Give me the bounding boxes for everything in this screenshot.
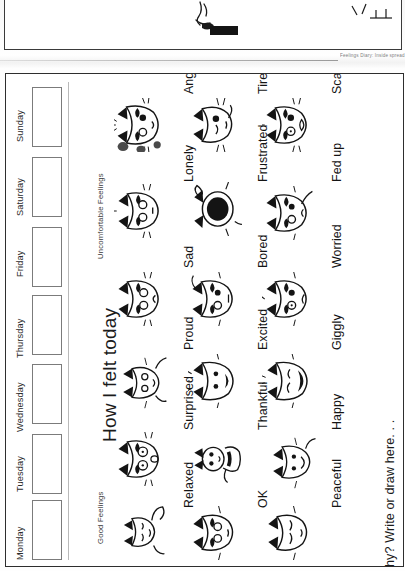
feeling-cell-lonely[interactable]: Lonely xyxy=(114,178,188,256)
feeling-cell-excited[interactable]: Excited xyxy=(188,346,262,424)
day-row-monday: Monday xyxy=(6,498,72,567)
tired-cat-icon xyxy=(188,98,242,152)
day-label-sunday: Sunday xyxy=(15,110,25,142)
frustrated-cat-icon xyxy=(188,182,242,236)
day-row-saturday: Saturday xyxy=(6,150,72,220)
feeling-cell-frustrated[interactable]: Frustrated xyxy=(188,178,262,256)
sad-cat-icon xyxy=(114,272,168,326)
feelings-diary-page: Sunday Saturday Friday Thursday Wednesda… xyxy=(5,73,404,567)
feeling-cell-happy[interactable]: Happy xyxy=(262,426,336,504)
scared-cat-icon xyxy=(262,98,316,152)
group-heading-good: Good Feelings xyxy=(96,491,105,544)
feeling-cell-relaxed[interactable]: Relaxed xyxy=(114,504,188,566)
day-input-sunday[interactable] xyxy=(32,87,62,147)
feeling-cell-proud[interactable]: Proud xyxy=(114,346,188,424)
day-input-saturday[interactable] xyxy=(32,157,62,217)
day-input-monday[interactable] xyxy=(32,500,62,560)
lonely-cat-icon xyxy=(114,184,168,238)
feeling-cell-thankful[interactable]: Thankful xyxy=(188,426,262,504)
day-row-thursday: Thursday xyxy=(6,290,72,360)
feeling-cell-angry[interactable]: Angry xyxy=(114,90,188,168)
feeling-cell-fedup[interactable]: Fed up xyxy=(262,178,336,256)
feeling-cell-worried[interactable]: Worried xyxy=(262,264,336,342)
day-input-tuesday[interactable] xyxy=(32,434,62,494)
day-row-wednesday: Wednesday xyxy=(6,360,72,430)
day-label-friday: Friday xyxy=(15,251,25,277)
previous-page-illustration-fragment xyxy=(180,0,405,44)
feeling-label-worried: Worried xyxy=(330,224,344,268)
thankful-cat-icon xyxy=(188,432,242,486)
day-label-thursday: Thursday xyxy=(15,319,25,359)
feeling-cell-scared[interactable]: Scared xyxy=(262,90,336,168)
angry-cat-icon xyxy=(114,98,168,152)
bored-cat-icon xyxy=(188,272,242,326)
giggly-cat-icon xyxy=(262,354,316,408)
proud-cat-icon xyxy=(116,356,170,410)
peaceful-cat-icon xyxy=(262,506,316,560)
group-heading-uncomfortable: Uncomfortable Feelings xyxy=(96,173,105,259)
day-row-sunday: Sunday xyxy=(6,80,72,150)
day-row-friday: Friday xyxy=(6,220,72,290)
ok-cat-icon xyxy=(188,506,242,560)
caption-rule xyxy=(0,60,338,61)
days-column-divider xyxy=(68,82,69,560)
feeling-label-giggly: Giggly xyxy=(330,314,344,350)
scanned-page-image: Feelings Diary: Inside spread Sunday Sat… xyxy=(0,0,405,571)
feeling-label-fedup: Fed up xyxy=(330,143,344,182)
feeling-label-peaceful: Peaceful xyxy=(330,459,344,508)
day-row-tuesday: Tuesday xyxy=(6,430,72,500)
day-input-thursday[interactable] xyxy=(32,295,62,355)
feeling-cell-surprised[interactable]: Surprised xyxy=(114,426,188,504)
page-caption: Feelings Diary: Inside spread xyxy=(340,52,405,58)
days-of-week-column: Sunday Saturday Friday Thursday Wednesda… xyxy=(6,74,72,566)
partial-cat-icon xyxy=(180,0,405,44)
feeling-label-scared: Scared xyxy=(330,73,344,94)
day-label-monday: Monday xyxy=(15,526,25,560)
feeling-label-happy: Happy xyxy=(330,394,344,430)
day-label-wednesday: Wednesday xyxy=(15,382,25,432)
feeling-cell-ok[interactable]: OK xyxy=(188,504,262,566)
happy-cat-icon xyxy=(266,436,320,490)
feeling-cell-giggly[interactable]: Giggly xyxy=(262,346,336,424)
day-input-wednesday[interactable] xyxy=(32,364,62,424)
feeling-cell-tired[interactable]: Tired xyxy=(188,90,262,168)
feeling-cell-sad[interactable]: Sad xyxy=(114,264,188,342)
worried-cat-icon xyxy=(262,272,316,326)
excited-cat-icon xyxy=(188,354,242,408)
day-label-saturday: Saturday xyxy=(15,178,25,216)
relaxed-cat-icon xyxy=(114,506,168,560)
day-label-tuesday: Tuesday xyxy=(15,456,25,492)
feeling-cell-peaceful[interactable]: Peaceful xyxy=(262,504,336,566)
feeling-cell-bored[interactable]: Bored xyxy=(188,264,262,342)
surprised-cat-icon xyxy=(114,432,168,486)
day-input-friday[interactable] xyxy=(32,227,62,287)
page-caption-row: Feelings Diary: Inside spread xyxy=(0,52,405,68)
fedup-cat-icon xyxy=(262,186,316,240)
write-or-draw-prompt: Why? Write or draw here. . . xyxy=(383,420,397,567)
